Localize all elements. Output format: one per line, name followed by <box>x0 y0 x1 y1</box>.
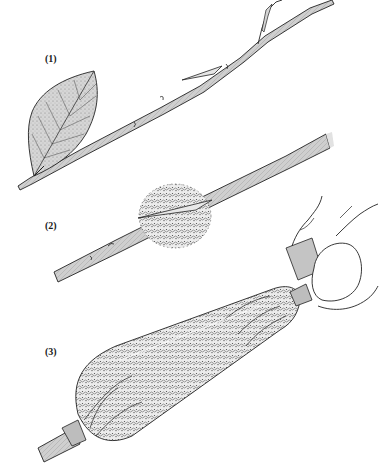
step-2-label: (2) <box>45 220 57 231</box>
step-3-label: (3) <box>45 346 57 357</box>
illustration-drawing <box>0 0 385 467</box>
step-3-wrapped-layer <box>38 196 378 462</box>
step-1-label: (1) <box>45 53 57 64</box>
air-layering-illustration: (1) (2) (3) <box>0 0 385 467</box>
